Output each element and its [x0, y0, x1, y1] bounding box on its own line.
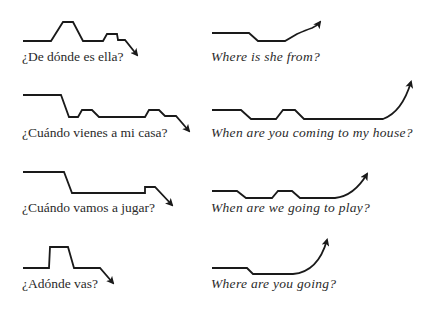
- spanish-question-3: ¿Cuándo vamos a jugar?: [22, 201, 155, 215]
- intonation-diagram: ¿De dónde es ella? Where is she from? ¿C…: [0, 0, 430, 312]
- english-question-4: Where are you going?: [211, 277, 336, 291]
- spanish-question-2: ¿Cuándo vienes a mi casa?: [22, 126, 167, 140]
- contour-lines: [0, 0, 430, 312]
- contour-english-4: [212, 240, 327, 274]
- contour-english-2: [212, 82, 411, 119]
- spanish-question-1: ¿De dónde es ella?: [22, 50, 124, 64]
- contour-english-3: [212, 174, 367, 198]
- spanish-question-4: ¿Adónde vas?: [22, 277, 98, 291]
- english-question-1: Where is she from?: [211, 50, 320, 64]
- contour-english-1: [212, 22, 320, 41]
- english-question-3: When are we going to play?: [211, 201, 370, 215]
- english-question-2: When are you coming to my house?: [211, 126, 413, 140]
